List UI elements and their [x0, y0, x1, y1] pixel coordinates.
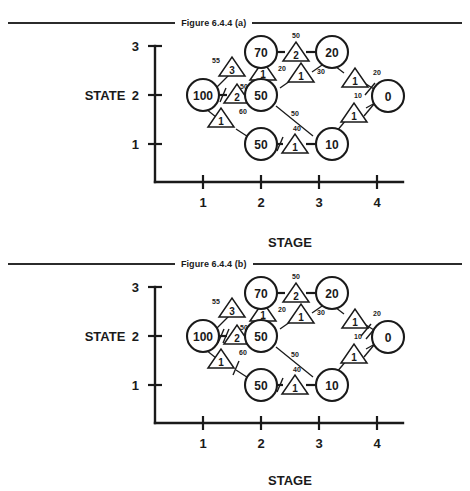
y-tick-label-2: 2 [132, 88, 139, 103]
x-tick-label-1: 1 [199, 195, 206, 210]
caption-text-b: Figure 6.4.4 (b) [181, 259, 247, 269]
arc-cost-30-b: 30 [317, 309, 325, 316]
triangle-label-1c-b: 1 [298, 312, 304, 323]
node-label-100: 100 [193, 89, 213, 103]
caption-rule-left-b [8, 263, 175, 265]
arc-cost-20-b: 20 [373, 69, 381, 76]
y-axis-label-b: STATE [85, 329, 126, 344]
arc-cost-10-b: 10 [354, 333, 362, 340]
arc-cost-50-a: 50 [240, 83, 248, 90]
caption-rule-right-b [253, 263, 462, 265]
node-label-10-b: 10 [325, 379, 339, 393]
node-label-50-low-b: 50 [254, 379, 268, 393]
triangle-label-1a: 1 [218, 116, 224, 127]
figure-panel-a: Figure 6.4.4 (a) 3 2 1 [0, 0, 470, 255]
node-label-70: 70 [254, 46, 268, 60]
arc-cost-50-b-b: 50 [292, 273, 300, 280]
triangle-label-3-b: 3 [229, 306, 235, 317]
triangle-label-2a-b: 2 [234, 333, 240, 344]
x-tick-label-3-b: 3 [315, 436, 322, 451]
figure-page: Figure 6.4.4 (a) 3 2 1 [0, 0, 470, 491]
y-axis-label: STATE [85, 88, 126, 103]
y-tick-label-1: 1 [132, 137, 139, 152]
triangle-label-1d: 1 [292, 142, 298, 153]
caption-rule-right [252, 22, 462, 24]
arc-cost-60: 60 [239, 108, 247, 115]
figure-caption-a: Figure 6.4.4 (a) [0, 0, 470, 32]
arc-cost-55-b: 55 [212, 298, 220, 305]
network-plot-a: 3 2 1 1 2 3 4 STATE STAGE [0, 32, 470, 260]
network-plot-b: 3 2 1 1 2 3 4 STATE STAGE [0, 273, 470, 491]
triangle-label-2b: 2 [293, 50, 299, 61]
node-label-20: 20 [325, 46, 339, 60]
caption-text: Figure 6.4.4 (a) [181, 18, 246, 28]
x-tick-label-3: 3 [315, 195, 322, 210]
y-tick-label-1-b: 1 [132, 378, 139, 393]
arc-cost-50-c: 50 [291, 110, 299, 117]
y-tick-label-3: 3 [132, 39, 139, 54]
caption-rule-left [8, 22, 175, 24]
y-tick-label-2-b: 2 [132, 329, 139, 344]
arc-cost-60-b: 60 [239, 349, 247, 356]
network-svg-b: 3 2 1 1 2 3 4 STATE STAGE [0, 273, 470, 488]
node-label-50-low: 50 [254, 138, 268, 152]
node-label-10: 10 [325, 138, 339, 152]
arc-cost-10: 10 [354, 92, 362, 99]
arc-cost-50-c-b: 50 [291, 351, 299, 358]
x-tick-label-4: 4 [373, 195, 381, 210]
triangle-label-1c: 1 [298, 71, 304, 82]
triangle-label-2a: 2 [234, 92, 240, 103]
node-label-70-b: 70 [254, 287, 268, 301]
node-label-20-b: 20 [325, 287, 339, 301]
figure-caption-b: Figure 6.4.4 (b) [0, 255, 470, 273]
x-tick-label-4-b: 4 [373, 436, 381, 451]
figure-panel-b: Figure 6.4.4 (b) 3 2 1 [0, 255, 470, 491]
triangle-label-1f: 1 [351, 111, 357, 122]
arc-cost-30: 30 [317, 68, 325, 75]
x-tick-label-2-b: 2 [257, 436, 264, 451]
triangle-label-1e: 1 [352, 76, 358, 87]
network-svg-a: 3 2 1 1 2 3 4 STATE STAGE [0, 32, 470, 260]
triangle-label-1e-b: 1 [352, 317, 358, 328]
x-axis-label: STAGE [268, 235, 312, 250]
node-label-0-b: 0 [385, 331, 392, 345]
arc-cost-20-a: 20 [278, 65, 286, 72]
arc-cost-55: 55 [212, 57, 220, 64]
arc-cost-50-a-b: 50 [240, 324, 248, 331]
node-label-0: 0 [385, 90, 392, 104]
triangle-label-1a-b: 1 [218, 357, 224, 368]
arc-cost-50-b: 50 [292, 32, 300, 39]
triangle-label-3: 3 [229, 65, 235, 76]
triangle-label-2b-b: 2 [293, 291, 299, 302]
triangle-label-1f-b: 1 [351, 352, 357, 363]
node-label-50-mid: 50 [254, 89, 268, 103]
y-tick-label-3-b: 3 [132, 280, 139, 295]
x-tick-label-2: 2 [257, 195, 264, 210]
arc-cost-40-b: 40 [293, 366, 301, 373]
x-axis-label-b: STAGE [268, 473, 312, 488]
triangle-label-1d-b: 1 [292, 383, 298, 394]
arc-cost-20-a-b: 20 [278, 306, 286, 313]
x-tick-label-1-b: 1 [199, 436, 206, 451]
node-label-100-b: 100 [193, 330, 213, 344]
arc-cost-40: 40 [293, 125, 301, 132]
arc-cost-20-b-b: 20 [373, 310, 381, 317]
node-label-50-mid-b: 50 [254, 330, 268, 344]
